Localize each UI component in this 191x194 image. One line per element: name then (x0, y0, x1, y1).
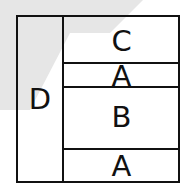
cell-a-bottom-label: A (63, 152, 180, 181)
cell-a-top-label: A (63, 62, 180, 91)
cell-d-label: D (18, 85, 62, 114)
cell-c-label: C (63, 27, 180, 56)
cell-b-label: B (63, 103, 180, 132)
